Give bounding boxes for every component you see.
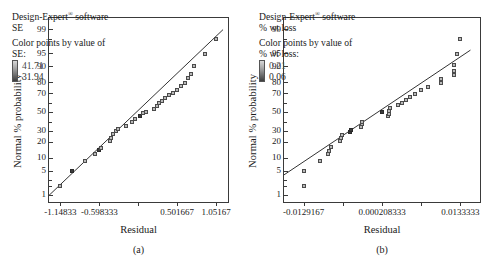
data-point bbox=[349, 128, 353, 132]
x-tick-label: -0.0129167 bbox=[283, 208, 324, 217]
x-tick-mark bbox=[99, 202, 100, 206]
data-point bbox=[302, 184, 306, 188]
data-point bbox=[419, 88, 423, 92]
data-point bbox=[452, 69, 456, 73]
x-tick-label: 0.0133333 bbox=[441, 208, 479, 217]
data-point bbox=[93, 152, 97, 156]
y-tick-label: 10 bbox=[37, 153, 46, 162]
y-tick-mark-minor bbox=[284, 180, 287, 181]
data-point bbox=[124, 124, 128, 128]
data-point bbox=[318, 159, 322, 163]
data-point bbox=[426, 85, 430, 89]
legend-b: Design-Expert® software % wt loss Color … bbox=[259, 8, 355, 82]
x-tick-mark bbox=[421, 202, 422, 206]
data-point bbox=[70, 169, 74, 173]
x-tick-mark bbox=[177, 202, 178, 206]
legend-software-suffix-a: software bbox=[73, 11, 108, 22]
legend-response-b: % wt loss bbox=[259, 22, 355, 33]
normal-probability-plots-figure: Normal % probability 9995908070503020105… bbox=[0, 0, 491, 266]
y-tick-mark-minor bbox=[49, 103, 52, 104]
data-point bbox=[340, 133, 344, 137]
y-tick-mark bbox=[49, 112, 53, 113]
color-scale-a: 41.71 31.94 bbox=[12, 60, 108, 82]
y-tick-label: 30 bbox=[272, 126, 281, 135]
color-scale-b: 0.21 0.06 bbox=[259, 60, 355, 82]
legend-software-suffix-b: software bbox=[320, 11, 355, 22]
y-tick-label: 50 bbox=[272, 107, 281, 116]
data-point bbox=[338, 139, 342, 143]
y-tick-label: 5 bbox=[42, 166, 47, 175]
y-tick-mark bbox=[284, 93, 288, 94]
y-tick-mark bbox=[284, 142, 288, 143]
x-tick-label: -0.598333 bbox=[81, 208, 118, 217]
y-tick-mark bbox=[284, 195, 288, 196]
y-tick-label: 70 bbox=[272, 89, 281, 98]
x-tick-label: 0.501667 bbox=[160, 208, 194, 217]
y-tick-mark-minor bbox=[49, 186, 52, 187]
color-scale-max-b: 0.21 bbox=[269, 60, 355, 71]
color-scale-min-b: 0.06 bbox=[269, 71, 355, 82]
data-point bbox=[144, 110, 148, 114]
y-tick-mark bbox=[49, 171, 53, 172]
y-tick-label: 70 bbox=[37, 89, 46, 98]
x-tick-mark bbox=[60, 202, 61, 206]
legend-software-name-b: Design-Expert bbox=[259, 11, 315, 22]
data-point bbox=[360, 120, 364, 124]
data-point bbox=[458, 37, 462, 41]
y-tick-mark-minor bbox=[284, 122, 287, 123]
data-point bbox=[452, 73, 456, 77]
x-axis-label-b: Residual bbox=[283, 224, 481, 235]
y-tick-label: 5 bbox=[277, 166, 282, 175]
y-tick-label: 20 bbox=[272, 137, 281, 146]
y-tick-mark bbox=[284, 171, 288, 172]
y-tick-label: 30 bbox=[37, 126, 46, 135]
color-scale-max-a: 41.71 bbox=[22, 60, 108, 71]
x-tick-label: -1.14833 bbox=[44, 208, 76, 217]
x-tick-label: 1.05167 bbox=[201, 208, 230, 217]
data-point bbox=[133, 117, 137, 121]
x-tick-mark bbox=[460, 202, 461, 206]
data-point bbox=[214, 37, 218, 41]
y-tick-mark bbox=[49, 131, 53, 132]
y-tick-mark-minor bbox=[49, 180, 52, 181]
legend-response-a: SE bbox=[12, 22, 108, 33]
y-tick-mark-minor bbox=[284, 103, 287, 104]
data-point bbox=[413, 92, 417, 96]
legend-colorby-line1-b: Color points by value of bbox=[259, 37, 355, 48]
color-gradient-bar-b bbox=[259, 60, 265, 82]
data-point bbox=[455, 52, 459, 56]
y-tick-label: 20 bbox=[37, 137, 46, 146]
x-tick-label: 0.000208333 bbox=[358, 208, 405, 217]
data-point bbox=[108, 139, 112, 143]
data-point bbox=[327, 149, 331, 153]
y-tick-mark bbox=[284, 131, 288, 132]
data-point bbox=[186, 76, 190, 80]
data-point bbox=[175, 88, 179, 92]
legend-software-a: Design-Expert® software bbox=[12, 8, 108, 22]
data-point bbox=[116, 127, 120, 131]
legend-a: Design-Expert® software SE Color points … bbox=[12, 8, 108, 82]
y-tick-mark-minor bbox=[284, 186, 287, 187]
y-tick-label: 1 bbox=[42, 190, 47, 199]
legend-colorby-line2-b: % wt loss: bbox=[259, 48, 355, 59]
y-tick-label: 1 bbox=[277, 190, 282, 199]
data-point bbox=[408, 95, 412, 99]
data-point bbox=[302, 169, 306, 173]
x-tick-mark bbox=[304, 202, 305, 206]
legend-software-b: Design-Expert® software bbox=[259, 8, 355, 22]
y-tick-mark bbox=[49, 93, 53, 94]
panel-a: Normal % probability 9995908070503020105… bbox=[0, 0, 245, 266]
data-point bbox=[83, 159, 87, 163]
y-tick-mark bbox=[49, 158, 53, 159]
y-tick-label: 10 bbox=[272, 153, 281, 162]
y-tick-mark-minor bbox=[49, 122, 52, 123]
x-tick-mark bbox=[382, 202, 383, 206]
data-point bbox=[452, 63, 456, 67]
x-axis-label-a: Residual bbox=[48, 224, 229, 235]
data-point bbox=[388, 106, 392, 110]
panel-caption-a: (a) bbox=[48, 244, 229, 255]
x-tick-mark bbox=[343, 202, 344, 206]
legend-software-name-a: Design-Expert bbox=[12, 11, 68, 22]
data-point bbox=[99, 146, 103, 150]
data-point bbox=[192, 64, 196, 68]
